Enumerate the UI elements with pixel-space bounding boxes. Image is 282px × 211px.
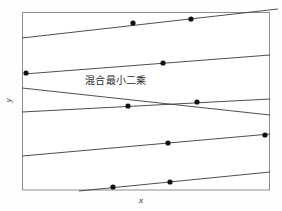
data-point <box>125 103 130 108</box>
data-point <box>188 16 193 21</box>
data-point <box>165 140 170 145</box>
data-point <box>130 20 135 25</box>
figure-container: 混合最小二乘 y x <box>0 0 282 211</box>
data-point <box>160 60 165 65</box>
x-axis-label: x <box>139 196 143 205</box>
data-point <box>23 70 28 75</box>
scatter-plot-svg <box>0 0 282 211</box>
y-axis-label: y <box>4 99 13 103</box>
data-point <box>110 184 115 189</box>
data-point <box>194 99 199 104</box>
data-point <box>167 179 172 184</box>
pooled-least-squares-annotation: 混合最小二乘 <box>85 72 147 87</box>
data-point <box>262 132 267 137</box>
